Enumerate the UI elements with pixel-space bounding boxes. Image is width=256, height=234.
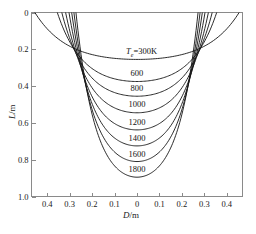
y-tick-label: 0 <box>0 9 29 18</box>
x-tick-label: 0.4 <box>35 200 59 209</box>
y-axis-ticks <box>32 14 36 198</box>
curve-label: Te=300K <box>125 47 158 58</box>
y-tick-label: 0.6 <box>0 119 29 128</box>
x-tick-label: 0.3 <box>58 200 82 209</box>
y-tick-label: 1.0 <box>0 193 29 202</box>
curve-label: 600 <box>130 69 145 78</box>
curve-label: 1200 <box>128 118 147 127</box>
curve-label: 1800 <box>128 165 147 174</box>
figure-caption <box>0 227 256 234</box>
y-tick-label: 0.8 <box>0 156 29 165</box>
x-tick-label: 0.1 <box>103 200 127 209</box>
y-tick-label: 0.2 <box>0 45 29 54</box>
x-tick-label: 0.3 <box>192 200 216 209</box>
curve-label: 1600 <box>128 150 147 159</box>
x-tick-label: 0.4 <box>215 200 239 209</box>
x-tick-label: 0.1 <box>147 200 171 209</box>
curve-label: 1400 <box>128 134 147 143</box>
x-axis-title: D/m <box>123 211 139 220</box>
y-tick-label: 0.4 <box>0 82 29 91</box>
curve-label: 800 <box>130 84 145 93</box>
curve-line <box>66 13 209 113</box>
curve-label: 1000 <box>128 100 147 109</box>
y-axis-title: L/m <box>8 104 17 119</box>
x-tick-label: 0.2 <box>80 200 104 209</box>
figure-chart-sag-curves: 0.40.30.20.100.10.20.30.4 00.20.40.60.81… <box>0 0 256 234</box>
x-tick-label: 0.2 <box>170 200 194 209</box>
x-tick-label: 0 <box>125 200 149 209</box>
